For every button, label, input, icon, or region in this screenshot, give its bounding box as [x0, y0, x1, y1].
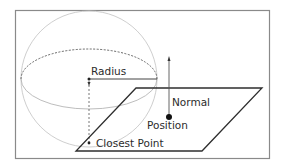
closest-point-dot: [88, 142, 91, 145]
closest-point-label: Closest Point: [96, 137, 164, 149]
sphere-plane-diagram: Radius Normal Position Closest Point: [0, 0, 281, 167]
normal-label: Normal: [172, 96, 210, 108]
radius-label: Radius: [91, 65, 126, 77]
position-label: Position: [147, 119, 188, 131]
sphere-center-dot: [88, 78, 91, 81]
